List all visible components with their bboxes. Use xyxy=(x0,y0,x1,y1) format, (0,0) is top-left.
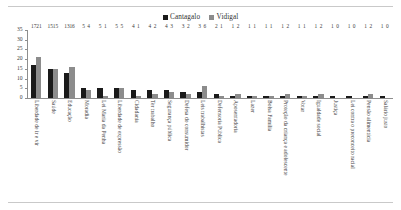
bar-rect xyxy=(36,57,41,98)
bar-vidigal[interactable]: 0 xyxy=(352,30,357,98)
bar-vidigal[interactable]: 2 xyxy=(152,30,157,98)
x-label-slot: Ter trabalho xyxy=(144,100,161,198)
x-axis-category-label: Defensoria Pública xyxy=(216,100,222,143)
bar-rect xyxy=(53,69,58,98)
x-axis-category-label: Justiça xyxy=(332,100,338,115)
x-label-slot: Defensoria Pública xyxy=(211,100,228,198)
bar-vidigal[interactable]: 21 xyxy=(36,30,41,98)
y-axis-tick-label: 25 xyxy=(17,47,23,53)
legend-item-cantagalo[interactable]: Cantagalo xyxy=(163,13,201,21)
x-label-slot: Educação xyxy=(61,100,78,198)
x-axis-category-label: Educação xyxy=(67,100,73,122)
bar-group: 1515 xyxy=(45,30,62,98)
bar-value-label: 5 xyxy=(121,24,124,29)
y-axis-tick-label: 15 xyxy=(17,66,23,72)
x-axis-category-label: Votar xyxy=(299,100,305,112)
bar-vidigal[interactable]: 2 xyxy=(368,30,373,98)
bar-group: 41 xyxy=(128,30,145,98)
bar-group: 10 xyxy=(343,30,360,98)
x-label-slot: Segurança pública xyxy=(161,100,178,198)
y-axis-tick-label: 20 xyxy=(17,56,23,62)
x-label-slot: Liberdade de expressão xyxy=(111,100,128,198)
bar-rect xyxy=(235,94,240,98)
bar-vidigal[interactable]: 16 xyxy=(69,30,74,98)
bar-vidigal[interactable]: 0 xyxy=(335,30,340,98)
bar-value-label: 3 xyxy=(182,24,185,29)
bar-group: 12 xyxy=(310,30,327,98)
bar-group: 12 xyxy=(277,30,294,98)
bar-group: 51 xyxy=(94,30,111,98)
x-axis-category-label: Ter trabalho xyxy=(150,100,156,127)
bar-value-label: 15 xyxy=(53,24,58,29)
x-axis-category-label: Liberdade de expressão xyxy=(117,100,123,153)
bar-value-label: 1 xyxy=(248,24,251,29)
bar-value-label: 5 xyxy=(99,24,102,29)
y-axis-tick-label: 5 xyxy=(20,85,23,91)
bar-rect xyxy=(69,67,74,98)
x-label-slot: Proteção da criança e adolescente xyxy=(277,100,294,198)
bar-vidigal[interactable]: 3 xyxy=(169,30,174,98)
bar-rect xyxy=(103,96,108,98)
bar-value-label: 1 xyxy=(314,24,317,29)
x-label-slot: Liberdade de ir e vir xyxy=(28,100,45,198)
bar-vidigal[interactable]: 2 xyxy=(285,30,290,98)
bar-group: 11 xyxy=(260,30,277,98)
x-label-slot: Igualdade social xyxy=(310,100,327,198)
bar-vidigal[interactable]: 1 xyxy=(136,30,141,98)
bar-vidigal[interactable]: 1 xyxy=(219,30,224,98)
bar-rect xyxy=(335,98,340,99)
bar-vidigal[interactable]: 2 xyxy=(318,30,323,98)
x-label-slot: Saúde xyxy=(45,100,62,198)
bar-value-label: 1 xyxy=(104,24,107,29)
bar-value-label: 1 xyxy=(137,24,140,29)
x-axis-category-label: Salário justo xyxy=(382,100,388,128)
square-marker-icon xyxy=(163,15,168,20)
bar-rect xyxy=(318,94,323,98)
bar-value-label: 0 xyxy=(386,24,389,29)
x-label-slot: Pensão alimentícia xyxy=(360,100,377,198)
bar-value-label: 1 xyxy=(220,24,223,29)
bar-vidigal[interactable]: 2 xyxy=(235,30,240,98)
bar-value-label: 1 xyxy=(298,24,301,29)
bar-rect xyxy=(252,96,257,98)
bar-value-label: 16 xyxy=(69,24,74,29)
bar-value-label: 4 xyxy=(87,24,90,29)
bar-group: 12 xyxy=(360,30,377,98)
bar-value-label: 0 xyxy=(336,24,339,29)
bar-value-label: 2 xyxy=(237,24,240,29)
bar-group: 10 xyxy=(327,30,344,98)
bar-rect xyxy=(119,88,124,98)
bar-group: 11 xyxy=(294,30,311,98)
bar-value-label: 1 xyxy=(281,24,284,29)
bottom-divider-rule xyxy=(8,202,393,203)
bar-value-label: 2 xyxy=(215,24,218,29)
legend-item-vidigal[interactable]: Vidigal xyxy=(209,13,238,21)
bar-vidigal[interactable]: 1 xyxy=(302,30,307,98)
bar-vidigal[interactable]: 1 xyxy=(269,30,274,98)
bar-value-label: 6 xyxy=(203,24,206,29)
x-label-slot: Votar xyxy=(294,100,311,198)
bar-vidigal[interactable]: 6 xyxy=(202,30,207,98)
bar-value-label: 3 xyxy=(198,24,201,29)
bar-groups: 1721151513165451554142433236211211111211… xyxy=(28,30,393,98)
bar-rect xyxy=(169,92,174,98)
bar-value-label: 4 xyxy=(149,24,152,29)
bar-rect xyxy=(302,96,307,98)
x-axis-category-label: Lei Maria da Penha xyxy=(100,100,106,144)
x-label-slot: Moradia xyxy=(78,100,95,198)
x-axis-category-label: Defesa do consumidor xyxy=(183,100,189,151)
bar-group: 36 xyxy=(194,30,211,98)
x-axis-category-label: Liberdade de ir e vir xyxy=(34,100,40,146)
bar-vidigal[interactable]: 4 xyxy=(86,30,91,98)
top-divider-rule xyxy=(8,6,393,7)
bar-vidigal[interactable]: 15 xyxy=(53,30,58,98)
bar-value-label: 1 xyxy=(270,24,273,29)
bar-value-label: 1 xyxy=(253,24,256,29)
x-label-slot: Leis trabalhistas xyxy=(194,100,211,198)
bar-vidigal[interactable]: 5 xyxy=(119,30,124,98)
bar-vidigal[interactable]: 0 xyxy=(385,30,390,98)
bar-vidigal[interactable]: 1 xyxy=(103,30,108,98)
bar-rect xyxy=(152,94,157,98)
bar-vidigal[interactable]: 2 xyxy=(186,30,191,98)
bar-vidigal[interactable]: 1 xyxy=(252,30,257,98)
